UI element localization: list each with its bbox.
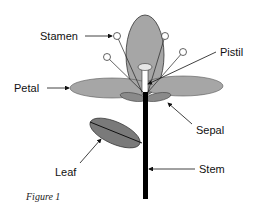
leaf — [86, 112, 144, 154]
label-sepal: Sepal — [196, 124, 224, 136]
pistil-stigma — [138, 64, 152, 71]
label-leaf: Leaf — [55, 166, 77, 178]
sepal-arrow — [168, 103, 192, 124]
figure-caption: Figure 1 — [25, 191, 60, 202]
label-stem: Stem — [199, 163, 225, 175]
label-stamen: Stamen — [40, 30, 78, 42]
pistil-style — [142, 68, 148, 93]
label-pistil: Pistil — [220, 46, 243, 58]
right-petal — [143, 76, 223, 96]
leaf-arrow — [80, 139, 101, 163]
label-petal: Petal — [14, 82, 39, 94]
flower-diagram: Stamen Petal Pistil Sepal Leaf Stem Figu… — [0, 0, 256, 214]
stem — [143, 92, 148, 199]
